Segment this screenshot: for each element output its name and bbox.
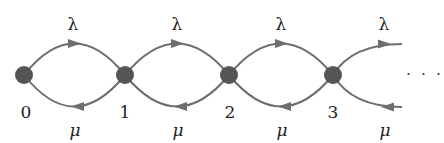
edge-group-2-3 [229,39,333,111]
state-node-3 [324,66,342,84]
state-label-1: 1 [120,102,131,122]
edge-mu-2-1 [125,75,229,107]
edge-lambda-1-2 [125,44,229,76]
continuation-ellipsis: · · · [406,66,443,82]
arrow-right-icon [378,40,391,49]
lambda-label: λ [172,14,183,34]
mu-label: μ [276,120,287,140]
mu-label: μ [69,120,80,140]
edge-lambda-3-more [333,44,402,75]
edge-lambda-2-3 [229,44,333,76]
state-label-0: 0 [21,102,32,122]
arrow-right-icon [171,39,184,48]
lambda-label: λ [68,14,79,34]
state-node-0 [15,66,33,84]
edge-group-1-2 [125,39,229,111]
state-node-1 [116,66,134,84]
arrow-left-icon [381,103,394,112]
edge-mu-more-3 [333,75,402,107]
edge-lambda-0-1 [24,44,125,76]
mu-label: μ [379,120,390,140]
arrow-left-icon [278,102,291,111]
state-label-3: 3 [328,102,339,122]
edge-group-0-1 [24,39,125,111]
arrow-right-icon [68,39,81,48]
birth-death-diagram: λ λ λ λ μ μ μ μ 0 1 2 3 · · · [0,0,444,143]
arrow-left-icon [174,102,187,111]
state-node-2 [220,66,238,84]
lambda-label: λ [379,14,390,34]
mu-label: μ [172,120,183,140]
state-label-2: 2 [225,102,236,122]
edge-mu-3-2 [229,75,333,107]
arrow-left-icon [71,102,84,111]
lambda-label: λ [276,14,287,34]
arrow-right-icon [275,39,288,48]
edge-mu-1-0 [24,75,125,107]
edge-group-3-more [333,40,402,112]
